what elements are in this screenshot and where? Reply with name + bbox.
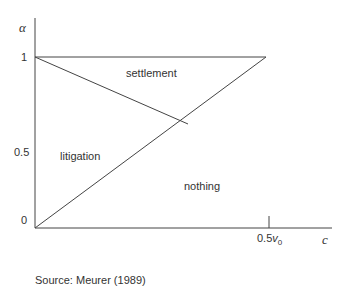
region-litigation-label: litigation [60,150,100,162]
y-tick-0: 0 [21,214,27,226]
settlement-litigation-diagram: α c 1 0.5 0 0.5v0 settlement litigation … [0,0,348,304]
y-tick-0.5: 0.5 [14,146,29,158]
y-axis-label: α [19,20,27,35]
x-tick-label: 0.5v0 [257,232,283,247]
source-caption: Source: Meurer (1989) [35,274,146,286]
region-settlement-label: settlement [126,67,177,79]
y-tick-1: 1 [21,51,27,63]
region-nothing-label: nothing [184,180,220,192]
x-axis-label: c [322,232,328,247]
diagonal-boundary [35,57,266,228]
